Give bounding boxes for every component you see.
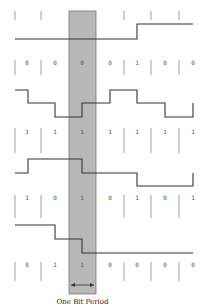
bit-value: 1 [191, 128, 195, 135]
bit-value: 1 [135, 194, 139, 201]
bit-value: 1 [80, 194, 84, 201]
bit-value: 0 [25, 59, 29, 66]
bit-value: 1 [53, 128, 57, 135]
bit-value: 1 [53, 261, 57, 268]
bit-value: 0 [163, 194, 167, 201]
bit-value: 1 [135, 59, 139, 66]
bit-value: 1 [80, 128, 84, 135]
bit-value: 0 [191, 59, 195, 66]
bit-value: 1 [25, 128, 29, 135]
bit-value: 0 [108, 194, 112, 201]
caption-text: One Bit Period [57, 298, 109, 306]
bit-value: 0 [53, 194, 57, 201]
bit-value: 0 [108, 261, 112, 268]
bit-value: 0 [108, 59, 112, 66]
waveform-4 [15, 225, 193, 253]
bit-value: 1 [191, 194, 195, 201]
bit-value: 0 [163, 59, 167, 66]
bit-value: 0 [53, 59, 57, 66]
bit-value: 0 [163, 261, 167, 268]
bit-value: 0 [80, 59, 84, 66]
bit-value: 1 [108, 128, 112, 135]
bit-value: 0 [135, 261, 139, 268]
bit-value: 1 [135, 128, 139, 135]
bit-value: 1 [25, 194, 29, 201]
bit-value: 0 [191, 261, 195, 268]
bit-value: 1 [163, 128, 167, 135]
bit-period-diagram: 0000100111111110101010110000One Bit Peri… [0, 0, 210, 308]
bit-value: 0 [25, 261, 29, 268]
bit-value: 1 [80, 261, 84, 268]
waveform-3 [15, 159, 193, 186]
waveform-1 [15, 24, 193, 39]
waveform-2 [15, 90, 193, 117]
